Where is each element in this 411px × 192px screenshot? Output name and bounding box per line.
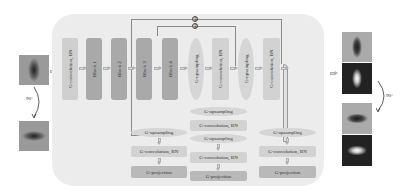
- arrow: [103, 66, 111, 71]
- skip-line-inner-right: [235, 26, 236, 66]
- arrow: [157, 158, 162, 165]
- block-1: Block 1: [86, 38, 102, 100]
- head1-upsampling: G-upsampling: [131, 128, 187, 137]
- head2-upsampling: G-upsampling: [190, 107, 247, 116]
- arrow: [285, 158, 290, 165]
- skip-line-outer: [131, 19, 281, 20]
- rotation-arrow-left: [30, 86, 44, 120]
- decoder-conv-1: G-convolution, BN: [212, 38, 229, 100]
- block-2: Block 2: [111, 38, 127, 100]
- head1-conv: G-convolution, BN: [131, 146, 187, 157]
- rotation-label-left: 90°: [26, 96, 33, 101]
- output-image-vertical-dark: [342, 32, 372, 62]
- arrow: [157, 138, 162, 145]
- stem-conv: G-convolution, BN: [62, 38, 78, 100]
- head1-projection: G-projection: [131, 166, 187, 178]
- sum-icon: ⊕: [192, 23, 198, 29]
- rotation-label-right: 90°: [386, 93, 393, 98]
- block-3: Block 3: [136, 38, 152, 100]
- arrow: [128, 66, 136, 71]
- head3-conv: G-convolution, BN: [259, 146, 316, 157]
- skip-line-outer-left: [131, 19, 132, 135]
- skip-line-outer-right: [281, 19, 282, 64]
- arrow: [216, 164, 221, 171]
- input-image-horizontal: [19, 121, 49, 151]
- arrow: [230, 66, 238, 71]
- input-image-vertical: [19, 55, 49, 85]
- head2-projection: G-projection: [190, 171, 247, 181]
- output-image-horizontal-dark: [342, 103, 372, 134]
- arrow: [154, 66, 162, 71]
- arrow: [281, 66, 289, 71]
- output-image-vertical-bright: [342, 63, 372, 94]
- head3-projection: G-projection: [259, 166, 316, 178]
- arrow: [180, 66, 188, 71]
- head2-conv-2: G-convolution, BN: [190, 152, 247, 163]
- head2-conv: G-convolution, BN: [190, 120, 247, 131]
- decoder-upsampling-2: G-upsampling: [238, 38, 254, 100]
- head3-upsampling: G-upsampling: [259, 128, 316, 137]
- decoder-upsampling-1: G-upsampling: [188, 38, 204, 100]
- decoder-conv-2: G-convolution, BN: [263, 38, 280, 100]
- output-image-horizontal-bright: [342, 135, 372, 166]
- arrow: [216, 144, 221, 151]
- skip-line-inner-left: [157, 26, 158, 36]
- block-4: Block 4: [162, 38, 178, 100]
- output-arrow: [330, 71, 338, 76]
- arrow: [255, 66, 263, 71]
- arrow: [285, 138, 290, 145]
- head2-upsampling-2: G-upsampling: [190, 134, 247, 143]
